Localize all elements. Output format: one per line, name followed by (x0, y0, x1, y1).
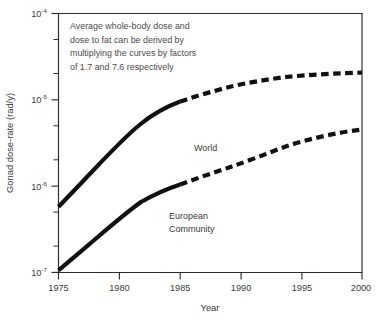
x-tick-label-1975: 1975 (48, 283, 68, 293)
annotation-line-1: Average whole-body dose and (70, 21, 190, 31)
gonad-dose-rate-chart: 10-4 10-5 10-6 10-7 1975 1980 1985 1990 … (0, 0, 380, 319)
series-ec-label-line1: European (169, 211, 208, 221)
y-axis-title: Gonad dose-rate (rad/y) (4, 93, 15, 193)
series-world-label: World (194, 143, 217, 153)
annotation-line-2: dose to fat can be derived by (70, 35, 185, 45)
series-ec-label-line2: Community (169, 224, 215, 234)
x-tick-label-2000: 2000 (351, 283, 371, 293)
annotation-line-4: of 1.7 and 7.6 respectively (70, 62, 174, 72)
x-tick-label-1985: 1985 (170, 283, 190, 293)
x-tick-label-1990: 1990 (231, 283, 251, 293)
x-tick-label-1980: 1980 (109, 283, 129, 293)
x-tick-label-1995: 1995 (292, 283, 312, 293)
chart-figure: 10-4 10-5 10-6 10-7 1975 1980 1985 1990 … (0, 0, 380, 319)
x-axis-title: Year (201, 302, 220, 313)
annotation-line-3: multiplying the curves by factors (70, 48, 197, 58)
